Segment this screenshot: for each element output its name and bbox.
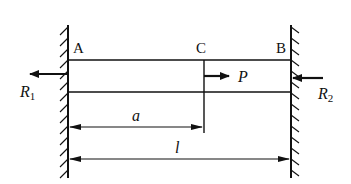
left-wall-support	[60, 25, 68, 178]
reaction-r1-symbol: R	[19, 83, 30, 100]
point-b-label: B	[276, 40, 286, 56]
load-p-label: P	[237, 68, 248, 85]
reaction-r2-label: R2	[317, 85, 333, 104]
fixed-bar-diagram: A C B P R1 R2 a l	[0, 0, 351, 184]
point-a-label: A	[73, 40, 84, 56]
point-c-label: C	[196, 40, 206, 56]
bar-member	[68, 60, 291, 92]
load-p-symbol: P	[237, 68, 248, 85]
dimension-a-label: a	[132, 107, 140, 124]
reaction-r2-subscript: 2	[328, 92, 334, 104]
right-wall-hatching	[291, 27, 299, 176]
reaction-r1-subscript: 1	[30, 90, 36, 102]
dimension-l-label: l	[175, 139, 180, 156]
right-wall-support	[291, 25, 299, 178]
left-wall-hatching	[60, 27, 68, 178]
reaction-r2-symbol: R	[317, 85, 328, 102]
reaction-r1-label: R1	[19, 83, 35, 102]
